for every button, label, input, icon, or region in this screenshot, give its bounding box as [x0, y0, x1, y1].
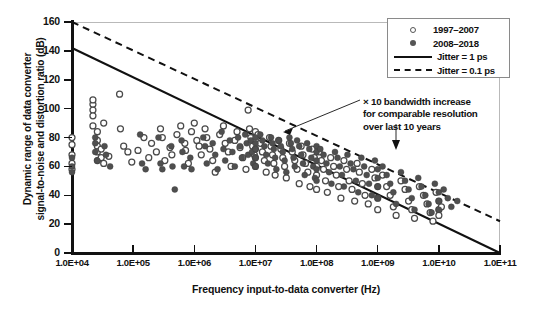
data-point: [339, 172, 345, 178]
data-point: [69, 169, 75, 175]
data-point: [139, 160, 145, 166]
data-point: [324, 189, 330, 195]
solid-line-icon: [393, 56, 433, 58]
data-point: [415, 175, 421, 181]
data-point: [298, 152, 304, 158]
chart-legend: 1997–2007 2008–2018 Jitter = 1 ps Jitter…: [387, 18, 510, 78]
data-point: [265, 160, 271, 166]
data-point: [332, 149, 338, 155]
x-tick: [377, 245, 379, 253]
data-point: [157, 126, 163, 132]
data-point: [333, 172, 339, 178]
data-point: [355, 189, 361, 195]
data-point: [125, 149, 131, 155]
data-point: [237, 143, 243, 149]
x-tick-label: 1.0E+09: [346, 257, 410, 268]
data-point: [252, 155, 258, 161]
data-point: [328, 181, 334, 187]
data-point: [321, 152, 327, 158]
y-tick: [64, 21, 72, 23]
data-point: [375, 195, 381, 201]
data-point: [187, 155, 193, 161]
data-point: [436, 212, 442, 218]
data-point: [174, 132, 180, 138]
annotation-line2: for comparable resolution: [363, 108, 535, 120]
legend-label: 1997–2007: [433, 24, 479, 35]
data-point: [259, 137, 265, 143]
data-point: [326, 169, 332, 175]
y-tick: [64, 195, 72, 197]
x-tick: [71, 245, 73, 253]
data-point: [194, 137, 200, 143]
data-point: [418, 184, 424, 190]
data-point: [261, 143, 267, 149]
filled-circle-icon: [393, 40, 433, 46]
x-tick-label: 1.0E+06: [162, 257, 226, 268]
data-point: [314, 158, 320, 164]
data-point: [271, 146, 277, 152]
data-point: [232, 163, 238, 169]
y-tick: [64, 223, 72, 225]
data-point: [69, 155, 75, 161]
data-point: [280, 149, 286, 155]
data-point: [323, 178, 329, 184]
data-point: [296, 181, 302, 187]
data-point: [426, 201, 432, 207]
data-point: [239, 155, 245, 161]
data-point: [406, 186, 412, 192]
data-point: [219, 129, 225, 135]
x-tick-label: 1.0E+08: [285, 257, 349, 268]
data-point: [356, 169, 362, 175]
data-point: [291, 155, 297, 161]
data-point: [353, 178, 359, 184]
data-point: [441, 186, 447, 192]
legend-item-1997-2007: 1997–2007: [393, 23, 504, 37]
data-point: [263, 152, 269, 158]
data-point: [247, 126, 253, 132]
data-point: [103, 152, 109, 158]
data-point: [306, 146, 312, 152]
x-tick: [438, 245, 440, 253]
data-point: [263, 169, 269, 175]
data-point: [181, 163, 187, 169]
data-point: [227, 137, 233, 143]
data-point: [302, 172, 308, 178]
data-point: [422, 192, 428, 198]
legend-label: 2008–2018: [433, 38, 479, 49]
chart-figure: 020406080100120140160 1.0E+041.0E+051.0E…: [0, 0, 536, 310]
data-point: [387, 181, 393, 187]
data-point: [331, 163, 337, 169]
data-point: [436, 198, 442, 204]
data-point: [352, 198, 358, 204]
data-point: [409, 195, 415, 201]
data-point: [242, 132, 248, 138]
data-point: [159, 166, 165, 172]
data-point: [398, 169, 404, 175]
data-point: [198, 152, 204, 158]
data-point: [364, 172, 370, 178]
data-point: [268, 135, 274, 141]
data-point: [69, 142, 75, 148]
data-point: [338, 195, 344, 201]
legend-label: Jitter = 0.1 ps: [437, 65, 495, 76]
data-point: [328, 155, 334, 161]
data-point: [341, 184, 347, 190]
data-point: [229, 149, 235, 155]
y-tick: [64, 108, 72, 110]
data-point: [390, 189, 396, 195]
annotation-line1: × 10 bandwidth increase: [363, 96, 535, 108]
data-point: [272, 172, 278, 178]
data-point: [178, 123, 184, 129]
data-point: [92, 149, 98, 155]
x-tick-label: 1.0E+07: [223, 257, 287, 268]
y-tick: [64, 137, 72, 139]
data-point: [432, 181, 438, 187]
data-point: [393, 212, 399, 218]
dashed-line-icon: [393, 69, 433, 71]
data-point: [137, 132, 143, 138]
data-point: [412, 207, 418, 213]
data-point: [101, 160, 107, 166]
data-point: [359, 181, 365, 187]
data-point: [296, 143, 302, 149]
data-point: [369, 166, 375, 172]
